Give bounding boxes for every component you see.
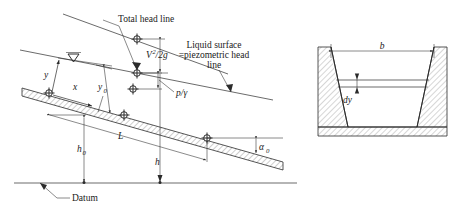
liquid-surface-label-line3: line: [207, 60, 221, 70]
liquid-surface-label-line1: Liquid surface: [186, 40, 241, 50]
figure-canvas: Total head line Liquid surface =piezomet…: [0, 0, 458, 216]
liquid-surface-label-line2: =piezometric head: [179, 50, 250, 60]
point-marker-pressure: [128, 84, 139, 95]
alpha0-subscript: 0: [266, 147, 270, 154]
dy-arrow-up: [355, 74, 359, 80]
h0-label: h 0: [77, 144, 87, 156]
datum-leader-arrow: [40, 183, 47, 190]
pressure-head-leader: [159, 80, 174, 92]
point-marker-total-head: [132, 34, 143, 45]
y-axis-arrow: [52, 60, 59, 92]
h0-datum-dot: [83, 181, 86, 184]
hydraulics-open-channel-figure: Total head line Liquid surface =piezomet…: [0, 0, 458, 216]
h0-base: h: [77, 144, 82, 154]
water-surface-segment: [58, 58, 112, 66]
x-axis-label: x: [72, 82, 78, 92]
longitudinal-profile-panel: Total head line Liquid surface =piezomet…: [14, 14, 297, 203]
h-label: h: [155, 157, 160, 167]
pressure-head-label: p/γ: [175, 88, 187, 98]
channel-cross-section-panel: dy b: [318, 41, 447, 136]
alpha0-base: α: [259, 142, 265, 152]
velocity-head-label: V 2 /2g: [146, 48, 168, 61]
point-marker-piezometric: [132, 68, 143, 79]
velocity-head-denominator: /2g: [155, 50, 168, 60]
channel-bed-band: [22, 88, 283, 170]
h-arrow-down: [158, 175, 163, 182]
h0-subscript: 0: [83, 149, 87, 156]
datum-label: Datum: [72, 193, 98, 203]
total-head-leader: [103, 20, 137, 70]
y0-subscript: 0: [104, 87, 108, 94]
y-axis-label: y: [43, 70, 49, 80]
dy-arrow-down: [355, 88, 359, 94]
b-label: b: [380, 41, 385, 51]
alpha0-label: α 0: [259, 142, 270, 154]
y0-leader: [98, 96, 103, 112]
channel-bottom-fill: [318, 127, 447, 136]
L-label: L: [117, 131, 123, 141]
total-head-line-label: Total head line: [118, 14, 174, 24]
dy-label: dy: [343, 95, 353, 105]
y0-base: y: [97, 82, 103, 92]
